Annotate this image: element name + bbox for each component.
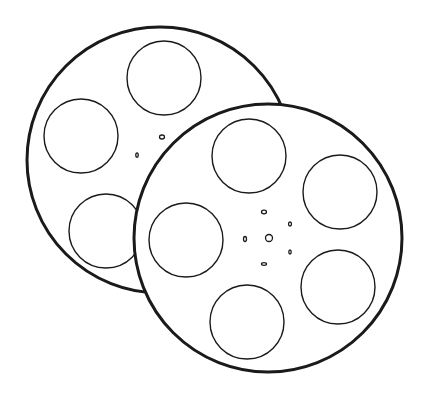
film-reels-illustration — [0, 0, 425, 401]
reel-outer-rim — [134, 104, 402, 372]
front-film-reel-icon — [134, 104, 402, 372]
